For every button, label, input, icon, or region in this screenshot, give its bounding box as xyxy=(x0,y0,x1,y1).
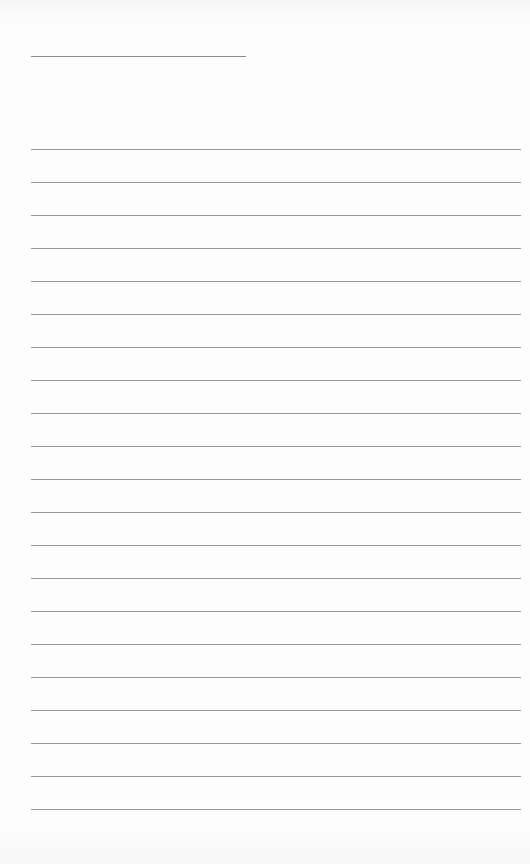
ruled-line xyxy=(31,380,521,381)
ruled-line xyxy=(31,446,521,447)
ruled-line xyxy=(31,248,521,249)
ruled-line xyxy=(31,281,521,282)
ruled-line xyxy=(31,314,521,315)
ruled-line xyxy=(31,545,521,546)
ruled-line xyxy=(31,776,521,777)
title-line xyxy=(31,56,246,57)
ruled-line xyxy=(31,512,521,513)
ruled-line xyxy=(31,413,521,414)
ruled-line xyxy=(31,611,521,612)
ruled-line xyxy=(31,743,521,744)
ruled-line xyxy=(31,644,521,645)
ruled-line xyxy=(31,710,521,711)
ruled-line xyxy=(31,578,521,579)
ruled-line xyxy=(31,479,521,480)
ruled-line xyxy=(31,182,521,183)
ruled-line xyxy=(31,149,521,150)
ruled-lines xyxy=(31,149,521,842)
ruled-line xyxy=(31,347,521,348)
lined-paper-page xyxy=(0,0,530,864)
ruled-line xyxy=(31,809,521,810)
ruled-line xyxy=(31,215,521,216)
ruled-line xyxy=(31,677,521,678)
